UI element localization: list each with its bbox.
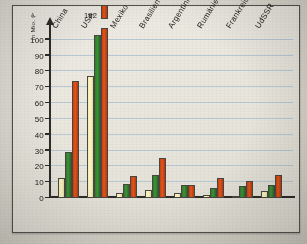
y-axis-tick-label: 100 — [30, 35, 44, 44]
y-axis-tick-label: 40 — [35, 130, 44, 139]
scanned-page: A. in Mio. t 0102030405060708090100 Chin… — [0, 0, 307, 244]
plot-area: 0102030405060708090100 ChinaUSAMexikoBra… — [49, 24, 295, 216]
y-axis-tick — [45, 197, 51, 198]
y-axis — [49, 24, 51, 198]
bar — [246, 181, 253, 198]
bar — [101, 28, 108, 198]
y-axis-tick-label: 0 — [39, 194, 44, 203]
bar — [275, 175, 282, 198]
bar — [203, 195, 210, 198]
y-axis-tick — [45, 86, 51, 87]
bar-value-label: 182 — [84, 11, 97, 20]
y-axis-tick — [45, 54, 51, 55]
bar — [123, 184, 130, 198]
bars — [145, 24, 166, 198]
bar — [232, 196, 239, 198]
bar — [152, 175, 159, 198]
bar — [116, 193, 123, 198]
y-axis-tick-label: 70 — [35, 83, 44, 92]
bar — [268, 185, 275, 198]
bars — [87, 24, 108, 198]
bars — [58, 24, 79, 198]
y-axis-tick — [45, 165, 51, 166]
bar — [94, 35, 101, 198]
x-axis — [49, 196, 295, 198]
y-axis-tick — [45, 133, 51, 134]
bar — [72, 81, 79, 198]
y-axis-tick — [45, 181, 51, 182]
y-axis-tick-label: 30 — [35, 146, 44, 155]
bars — [232, 24, 253, 198]
y-axis-tick — [45, 70, 51, 71]
y-axis-tick-label: 50 — [35, 114, 44, 123]
bar — [159, 158, 166, 198]
figure-frame: A. in Mio. t 0102030405060708090100 Chin… — [12, 5, 300, 233]
y-axis-tick-label: 20 — [35, 162, 44, 171]
y-axis-tick — [45, 149, 51, 150]
bar — [130, 176, 137, 198]
y-axis-tick-label: 10 — [35, 178, 44, 187]
bar — [87, 76, 94, 198]
bars — [261, 24, 282, 198]
bars — [116, 24, 137, 198]
bar — [145, 190, 152, 198]
bar — [181, 185, 188, 198]
y-axis-tick — [45, 102, 51, 103]
y-axis-tick-label: 80 — [35, 67, 44, 76]
bar — [239, 186, 246, 198]
bar — [58, 178, 65, 198]
bar — [210, 188, 217, 198]
y-axis-tick-label: 60 — [35, 99, 44, 108]
bar — [217, 178, 224, 198]
bar — [188, 185, 195, 198]
y-axis-tick-label: 90 — [35, 51, 44, 60]
bar — [261, 191, 268, 198]
bar-truncated-top — [101, 5, 108, 19]
bars — [174, 24, 195, 198]
y-axis-tick — [45, 118, 51, 119]
y-axis-tick — [45, 38, 51, 39]
bars — [203, 24, 224, 198]
bar — [174, 193, 181, 198]
bar — [65, 152, 72, 198]
